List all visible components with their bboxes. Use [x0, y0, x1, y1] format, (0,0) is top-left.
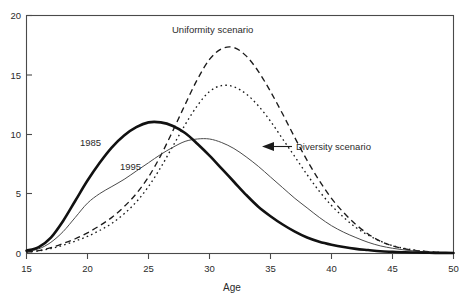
series-line-diversity-scenario	[27, 85, 454, 253]
series-label-1985: 1985	[80, 137, 101, 148]
series-line-1995	[27, 139, 454, 253]
x-tick-label-15: 15	[21, 263, 32, 274]
chart-container: 0 5 10 15 20 15 20 25 30 35 40 45 50 Age	[0, 0, 464, 299]
x-tick-label-35: 35	[265, 263, 276, 274]
plot-frame	[27, 16, 454, 254]
y-tick-label-10: 10	[10, 129, 21, 140]
population-age-distribution-chart: 0 5 10 15 20 15 20 25 30 35 40 45 50 Age	[0, 0, 464, 299]
x-tick-label-20: 20	[82, 263, 93, 274]
y-tick-label-5: 5	[16, 188, 21, 199]
y-tick-label-15: 15	[10, 70, 21, 81]
y-tick-label-0: 0	[16, 248, 21, 259]
x-axis-title: Age	[223, 282, 241, 293]
arrow-left-icon	[262, 142, 274, 151]
annotation-diversity-scenario: Diversity scenario	[296, 141, 371, 152]
x-tick-label-50: 50	[448, 263, 459, 274]
y-tick-label-20: 20	[10, 10, 21, 21]
series-line-uniformity-scenario	[27, 47, 454, 253]
annotation-uniformity-scenario: Uniformity scenario	[172, 24, 253, 35]
x-tick-label-25: 25	[143, 263, 154, 274]
x-tick-label-45: 45	[387, 263, 398, 274]
x-tick-label-30: 30	[204, 263, 215, 274]
y-axis-ticks	[27, 16, 33, 254]
diversity-leader	[262, 142, 292, 151]
series-label-1995: 1995	[120, 161, 141, 172]
x-tick-label-40: 40	[326, 263, 337, 274]
